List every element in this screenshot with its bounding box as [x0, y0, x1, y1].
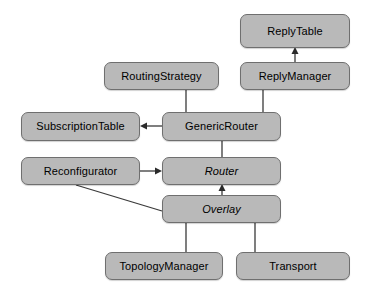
- node-subscription-table[interactable]: SubscriptionTable: [21, 112, 140, 141]
- node-reply-manager[interactable]: ReplyManager: [240, 62, 350, 90]
- node-generic-router[interactable]: GenericRouter: [162, 112, 281, 141]
- edge-reconfigurator-to-overlay: [76, 185, 162, 211]
- node-label-router: Router: [201, 166, 243, 177]
- node-routing-strategy[interactable]: RoutingStrategy: [104, 62, 219, 90]
- node-label-overlay: Overlay: [198, 204, 245, 215]
- node-label-reconfigurator: Reconfigurator: [40, 166, 122, 177]
- node-router[interactable]: Router: [162, 157, 281, 185]
- edge-reply-manager-to-reply-table: [292, 47, 299, 62]
- node-reply-table[interactable]: ReplyTable: [240, 14, 350, 48]
- node-label-topology-manager: TopologyManager: [116, 261, 213, 272]
- edge-overlay-to-router: [219, 184, 226, 195]
- node-transport[interactable]: Transport: [236, 252, 350, 280]
- node-overlay[interactable]: Overlay: [162, 195, 281, 223]
- edge-reconfigurator-to-router: [140, 168, 162, 175]
- node-label-generic-router: GenericRouter: [181, 121, 262, 132]
- node-label-transport: Transport: [265, 261, 321, 272]
- node-label-subscription-table: SubscriptionTable: [32, 121, 129, 132]
- node-label-reply-manager: ReplyManager: [255, 71, 336, 82]
- node-topology-manager[interactable]: TopologyManager: [105, 252, 223, 280]
- node-label-routing-strategy: RoutingStrategy: [117, 71, 205, 82]
- node-reconfigurator[interactable]: Reconfigurator: [21, 157, 140, 185]
- edge-generic-router-to-subscription-table: [140, 123, 162, 130]
- class-diagram-canvas: ReplyTable RoutingStrategy ReplyManager …: [0, 0, 370, 294]
- node-label-reply-table: ReplyTable: [263, 26, 326, 37]
